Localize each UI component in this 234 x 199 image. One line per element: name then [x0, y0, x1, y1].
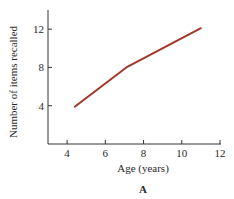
y-tick-label: 8 — [39, 61, 45, 73]
y-tick-label: 12 — [33, 23, 44, 35]
series-line — [75, 28, 201, 106]
y-axis-label: Number of items recalled — [7, 25, 19, 138]
x-tick-label: 6 — [103, 147, 109, 159]
axes — [48, 10, 221, 144]
y-tick-label: 4 — [39, 100, 45, 112]
series — [75, 28, 201, 106]
ticks: 46810124812 — [33, 23, 226, 159]
x-tick-label: 4 — [64, 147, 70, 159]
panel-label: A — [139, 183, 147, 195]
x-tick-label: 10 — [176, 147, 188, 159]
line-chart: 46810124812 Age (years) Number of items … — [0, 0, 234, 199]
x-tick-label: 8 — [141, 147, 147, 159]
x-tick-label: 12 — [215, 147, 226, 159]
x-axis-label: Age (years) — [117, 162, 169, 175]
